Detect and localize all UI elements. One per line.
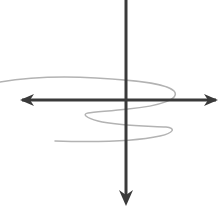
figure-canvas bbox=[0, 0, 224, 209]
axes-spiral-diagram bbox=[0, 0, 224, 209]
spiral-curve bbox=[0, 77, 175, 141]
